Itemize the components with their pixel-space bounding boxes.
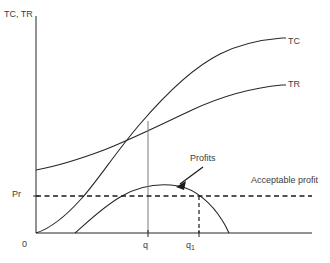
profits-callout-arrow-shaft [180, 167, 203, 184]
profit-curve [75, 185, 229, 233]
total-cost-revenue-chart: TC, TR TC TR Profits Acceptable profit P… [0, 0, 330, 263]
tr-curve [36, 85, 282, 170]
tr-curve-label: TR [288, 80, 300, 89]
y-axis-label: TC, TR [4, 10, 33, 19]
q1-subscript: 1 [191, 244, 195, 251]
acceptable-profit-label: Acceptable profit [251, 176, 318, 185]
tc-curve [36, 38, 282, 233]
profits-annotation-label: Profits [190, 154, 216, 163]
pr-axis-tick-label: Pr [12, 190, 21, 199]
chart-canvas [0, 0, 330, 263]
origin-label: 0 [22, 240, 27, 249]
q-axis-tick-label: q [143, 241, 148, 250]
tc-curve-label: TC [288, 37, 300, 46]
q1-axis-tick-label: q1 [186, 241, 195, 250]
